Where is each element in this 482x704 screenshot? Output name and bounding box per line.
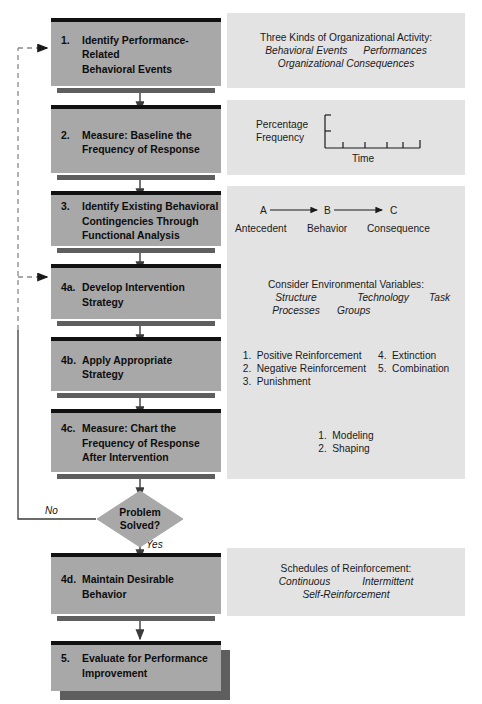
box-bottom-shadow-bar xyxy=(57,321,215,326)
step-2-label: 2. Measure: Baseline the Frequency of Re… xyxy=(61,128,200,157)
info-panel-4d-title: Schedules of Reinforcement: xyxy=(233,562,459,575)
process-box-step-1[interactable]: 1. Identify Performance-Related Behavior… xyxy=(51,18,221,93)
abc-word-behavior: Behavior xyxy=(307,222,347,235)
box-bottom-shadow-bar xyxy=(57,88,215,93)
abc-letter-c: C xyxy=(390,204,397,217)
process-box-step-4a[interactable]: 4a. Develop Intervention Strategy xyxy=(51,264,221,326)
info-panel-step-4a: Consider Environmental Variables: Struct… xyxy=(227,260,465,335)
box-bottom-shadow-bar xyxy=(57,616,215,621)
process-box-step-3[interactable]: 3. Identify Existing Behavioral Continge… xyxy=(51,191,221,253)
edge-label-no: No xyxy=(45,505,58,516)
list-item: 2. Negative Reinforcement xyxy=(243,362,366,375)
info-panel-4b-lists: 1. Positive Reinforcement 2. Negative Re… xyxy=(233,349,459,389)
step-5-label: 5. Evaluate for Performance Improvement xyxy=(61,652,208,681)
box-bottom-shadow-bar xyxy=(57,175,215,180)
info-panel-1-title: Three Kinds of Organizational Activity: xyxy=(233,31,459,44)
info-panel-4a-title: Consider Environmental Variables: xyxy=(233,278,459,291)
process-box-step-2[interactable]: 2. Measure: Baseline the Frequency of Re… xyxy=(51,105,221,180)
info-panel-4c-list: 1. Modeling 2. Shaping xyxy=(233,428,459,454)
list-item: 5. Combination xyxy=(378,362,449,375)
step-4b-label: 4b. Apply Appropriate Strategy xyxy=(61,353,172,382)
process-box-step-4c[interactable]: 4c. Measure: Chart the Frequency of Resp… xyxy=(51,409,221,479)
step-1-label: 1. Identify Performance-Related Behavior… xyxy=(61,34,221,78)
box-bottom-shadow-bar xyxy=(57,393,215,398)
info-panel-step-3: A B C Antecedent Behavior Consequence xyxy=(227,186,465,261)
process-box-step-5[interactable]: 5. Evaluate for Performance Improvement xyxy=(51,641,221,691)
info-panel-step-1: Three Kinds of Organizational Activity: … xyxy=(227,13,465,88)
box-bottom-drop-shadow xyxy=(60,691,230,700)
abc-word-antecedent: Antecedent xyxy=(235,222,287,235)
info-panel-step-4d: Schedules of Reinforcement: Continuous I… xyxy=(227,548,465,616)
step-4c-label: 4c. Measure: Chart the Frequency of Resp… xyxy=(61,422,200,466)
info-panel-4b-column-2: 4. Extinction 5. Combination xyxy=(378,349,449,389)
decision-label: Problem Solved? xyxy=(96,506,184,532)
process-box-step-4b[interactable]: 4b. Apply Appropriate Strategy xyxy=(51,337,221,398)
info-panel-4a-row-1: Structure Technology Task xyxy=(233,291,459,304)
list-item: 3. Punishment xyxy=(243,376,366,389)
step-3-label: 3. Identify Existing Behavioral Continge… xyxy=(61,200,218,244)
decision-problem-solved[interactable]: Problem Solved? xyxy=(96,490,184,548)
list-item: 2. Shaping xyxy=(318,442,373,455)
process-box-step-4d[interactable]: 4d. Maintain Desirable Behavior xyxy=(51,553,221,621)
list-item: 1. Modeling xyxy=(318,428,373,441)
info-panel-4a-row-2: Processes Groups xyxy=(233,304,459,317)
info-panel-1-row-1: Behavioral Events Performances xyxy=(233,44,459,57)
flowchart-canvas: Three Kinds of Organizational Activity: … xyxy=(0,0,482,704)
info-panel-step-4b: 1. Positive Reinforcement 2. Negative Re… xyxy=(227,333,465,405)
info-panel-step-2: Percentage Frequency Time xyxy=(227,100,465,175)
list-item: 4. Extinction xyxy=(378,349,449,362)
info-panel-4b-column-1: 1. Positive Reinforcement 2. Negative Re… xyxy=(243,349,366,389)
list-item: 1. Positive Reinforcement xyxy=(243,349,366,362)
box-bottom-shadow-bar xyxy=(57,248,215,253)
info-panel-1-row-2: Organizational Consequences xyxy=(233,57,459,70)
info-panel-4d-row-1: Continuous Intermittent xyxy=(233,575,459,588)
mini-chart-axes xyxy=(227,100,465,175)
step-4a-label: 4a. Develop Intervention Strategy xyxy=(61,281,185,310)
step-4d-label: 4d. Maintain Desirable Behavior xyxy=(61,573,174,602)
info-panel-step-4c: 1. Modeling 2. Shaping xyxy=(227,404,465,479)
abc-letter-b: B xyxy=(324,204,331,217)
abc-letter-a: A xyxy=(260,204,267,217)
box-bottom-shadow-bar xyxy=(57,474,215,479)
abc-word-consequence: Consequence xyxy=(367,222,430,235)
info-panel-4d-row-2: Self-Reinforcement xyxy=(233,589,459,602)
